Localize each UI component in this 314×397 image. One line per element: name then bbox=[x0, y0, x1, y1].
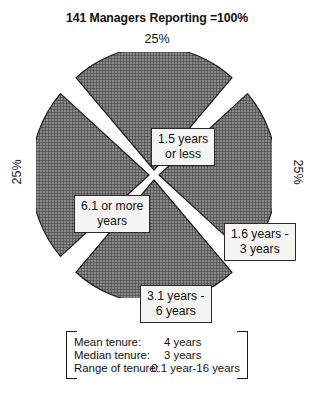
pie-slice-label-1-line1: 1.6 years - bbox=[231, 227, 289, 242]
summary-row-range: Range of tenure: 0.1 year-16 years bbox=[74, 362, 240, 375]
summary-label-mean: Mean tenure: bbox=[74, 336, 160, 349]
summary-value-median: 3 years bbox=[164, 349, 201, 362]
page-title: 141 Managers Reporting =100% bbox=[0, 11, 314, 25]
pie-slice-label-3-line1: 6.1 or more bbox=[81, 199, 143, 214]
summary-value-range: 0.1 year-16 years bbox=[151, 362, 240, 375]
pie-slice-label-0: 1.5 years or less bbox=[151, 128, 215, 166]
pie-percent-label-left: 25% bbox=[10, 159, 24, 184]
pie-slice-label-3: 6.1 or more years bbox=[74, 195, 150, 233]
pie-slice-label-2-line1: 3.1 years - bbox=[147, 289, 205, 304]
summary-row-median: Median tenure: 3 years bbox=[74, 349, 240, 362]
pie-slices bbox=[36, 52, 272, 298]
summary-value-mean: 4 years bbox=[164, 336, 201, 349]
summary-row-mean: Mean tenure: 4 years bbox=[74, 336, 240, 349]
summary-label-range: Range of tenure: bbox=[74, 362, 147, 375]
pie-slice-label-1: 1.6 years - 3 years bbox=[224, 223, 296, 261]
summary-statistics-box: Mean tenure: 4 years Median tenure: 3 ye… bbox=[66, 331, 248, 379]
pie-slice-label-3-line2: years bbox=[81, 214, 143, 229]
pie-slice-label-2: 3.1 years - 6 years bbox=[140, 285, 212, 323]
pie-percent-label-top: 25% bbox=[0, 32, 314, 46]
pie-slice-label-2-line2: 6 years bbox=[147, 304, 205, 319]
pie-slice-label-0-line1: 1.5 years bbox=[158, 132, 208, 147]
pie-chart: 1.5 years or less 1.6 years - 3 years 3.… bbox=[36, 52, 272, 298]
summary-label-median: Median tenure: bbox=[74, 349, 160, 362]
pie-percent-label-right: 25% bbox=[291, 159, 305, 184]
pie-slice-label-0-line2: or less bbox=[158, 147, 208, 162]
pie-chart-svg bbox=[36, 52, 272, 298]
pie-slice-label-1-line2: 3 years bbox=[231, 242, 289, 257]
